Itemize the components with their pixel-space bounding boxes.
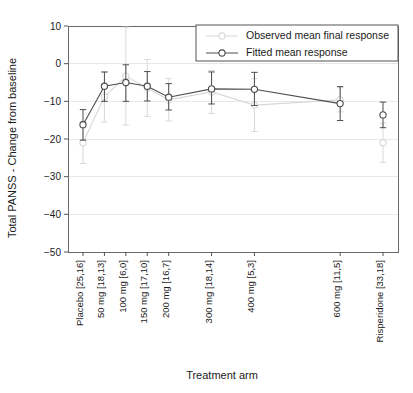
y-tick-label: −20 [44,134,61,145]
x-tick-label: 150 mg [17,10] [138,260,149,323]
data-point [251,86,257,92]
x-tick-label: Risperidone [33,18] [374,260,385,342]
panss-dose-response-chart: 100−10−20−30−40−50 Placebo [25,16]50 mg … [0,0,413,393]
data-point [101,83,107,89]
x-axis-title: Treatment arm [186,369,258,381]
x-tick-label: 200 mg [16,7] [160,260,171,318]
x-tick-label: 50 mg [18,13] [95,260,106,318]
y-axis-title: Total PANSS - Change from baseline [6,58,18,238]
data-point [208,86,214,92]
data-point [337,100,343,106]
y-tick-label: −30 [44,171,61,182]
y-tick-label: 0 [55,58,61,69]
x-tick-label: 100 mg [6,0] [117,260,128,313]
data-point [380,140,386,146]
chart-legend: Observed mean final responseFitted mean … [196,25,398,61]
x-tick-label: 400 mg [5,3] [245,260,256,313]
y-tick-label: −10 [44,96,61,107]
legend-label: Fitted mean response [246,46,348,58]
legend-label: Observed mean final response [246,29,389,41]
data-point [166,94,172,100]
y-tick-label: −50 [44,247,61,258]
x-axis-ticks: Placebo [25,16]50 mg [18,13]100 mg [6,0]… [74,252,385,342]
y-tick-label: 10 [50,21,62,32]
data-point [123,79,129,85]
data-point [144,83,150,89]
y-axis-ticks: 100−10−20−30−40−50 [44,21,68,258]
x-tick-label: Placebo [25,16] [74,260,85,326]
y-tick-label: −40 [44,209,61,220]
chart-figure: 100−10−20−30−40−50 Placebo [25,16]50 mg … [0,0,413,393]
x-tick-label: 600 mg [11,5] [331,260,342,317]
data-point [80,122,86,128]
x-tick-label: 300 mg [18,14] [203,260,214,323]
data-point [380,112,386,118]
